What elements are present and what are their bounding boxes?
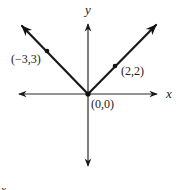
absolute-value-graph: x y (−3,3) (2,2) (0,0) x xyxy=(0,0,184,190)
label-point-origin: (0,0) xyxy=(91,97,114,111)
y-axis-label: y xyxy=(83,2,91,17)
right-ray xyxy=(88,25,156,94)
point-origin xyxy=(85,91,90,96)
label-point-left: (−3,3) xyxy=(11,52,41,66)
point-left xyxy=(45,49,50,54)
point-right xyxy=(113,64,118,69)
label-point-right: (2,2) xyxy=(121,64,144,78)
stray-glyph: x xyxy=(0,183,6,190)
x-axis-label: x xyxy=(165,86,172,101)
